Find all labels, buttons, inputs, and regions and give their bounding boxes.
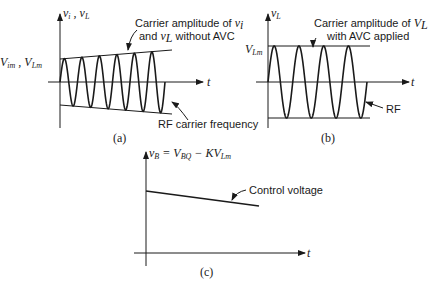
panel-a-envelope-pointer — [128, 30, 137, 50]
panel-b-envelope-annotation-line2: with AVC applied — [327, 30, 409, 42]
panel-a-lower-envelope — [60, 105, 172, 114]
panel-a-caption: (a) — [113, 132, 126, 144]
panel-b-rf-annotation: RF — [386, 103, 401, 115]
panel-c-control-voltage-line — [146, 191, 259, 206]
panel-b-y-axis-label: vL — [271, 7, 281, 23]
panel-b-caption: (b) — [321, 132, 335, 144]
panel-a-envelope-annotation-line1: Carrier amplitude of vi — [135, 17, 243, 31]
panel-b-envelope-annotation-line1: Carrier amplitude of VL — [314, 17, 428, 31]
panel-c-plot — [134, 152, 305, 266]
panel-a-y-axis-label: vi , vL — [63, 7, 89, 23]
panel-c-caption: (c) — [200, 266, 213, 278]
panel-b-rf-pointer — [366, 102, 383, 108]
panel-a-envelope-annotation-line2: and vL without AVC — [139, 30, 235, 44]
panel-a-carrier-annotation: RF carrier frequency — [158, 118, 258, 130]
panel-c-control-voltage-annotation: Control voltage — [249, 184, 323, 196]
panel-b-t-label: t — [411, 76, 414, 88]
panel-c-control-pointer — [232, 190, 246, 200]
panel-c-t-label: t — [307, 247, 310, 259]
panel-a-t-label: t — [207, 76, 210, 88]
panel-c-y-axis-label: vB = VBQ − KVLm — [149, 147, 231, 163]
panel-a-amplitude-label: Vim , VLm — [0, 56, 42, 72]
panel-b-amplitude-label: VLm — [245, 43, 263, 59]
